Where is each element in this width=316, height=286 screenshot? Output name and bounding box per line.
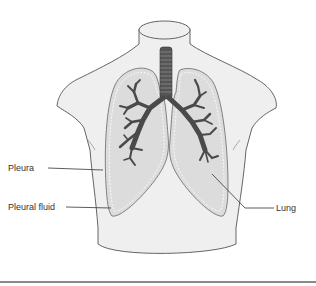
label-pleural-fluid: Pleural fluid (8, 202, 55, 212)
label-lung: Lung (276, 203, 296, 213)
label-pleura: Pleura (8, 163, 34, 173)
trachea (160, 47, 172, 99)
neck-opening (139, 21, 190, 39)
bottom-divider (0, 281, 316, 283)
thorax-lung-diagram (0, 0, 316, 286)
